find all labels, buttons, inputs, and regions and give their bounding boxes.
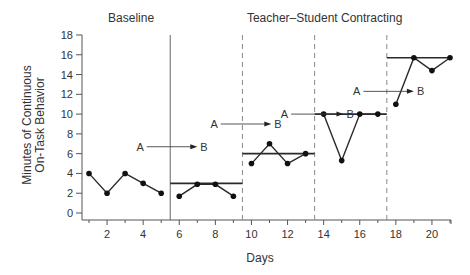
data-point — [104, 190, 110, 196]
data-point — [357, 111, 363, 117]
series-contract-phase-4 — [393, 55, 453, 107]
arrow-annotations: ABABABAB — [136, 85, 424, 152]
y-tick-label: 14 — [61, 69, 73, 81]
annotation-label-b: B — [200, 141, 207, 153]
y-tick-label: 6 — [67, 148, 73, 160]
annotation-label-a: A — [210, 118, 218, 130]
data-point — [429, 68, 435, 74]
data-point — [122, 171, 128, 177]
x-tick-label: 4 — [140, 228, 146, 240]
arrow-head-icon — [337, 112, 344, 117]
x-tick-label: 18 — [390, 228, 402, 240]
series-line — [179, 184, 233, 196]
data-point — [249, 161, 255, 167]
x-tick-label: 10 — [245, 228, 257, 240]
data-point — [158, 190, 164, 196]
y-tick-label: 10 — [61, 108, 73, 120]
x-tick-label: 16 — [354, 228, 366, 240]
x-tick-label: 2 — [104, 228, 110, 240]
axes: 0246810121416182468101214161820 — [61, 29, 451, 240]
y-tick-label: 0 — [67, 207, 73, 219]
phase-title: Baseline — [108, 11, 154, 25]
x-tick-label: 20 — [426, 228, 438, 240]
data-point — [411, 55, 417, 61]
annotation-label-b: B — [417, 85, 424, 97]
arrow-head-icon — [407, 89, 414, 94]
single-case-design-chart: 0246810121416182468101214161820 ABABABAB… — [0, 0, 470, 275]
data-point — [267, 141, 273, 147]
y-tick-label: 8 — [67, 128, 73, 140]
arrow-annotation: AB — [210, 118, 281, 130]
arrow-annotation: AB — [353, 85, 424, 97]
phase-titles: BaselineTeacher–Student Contracting — [108, 11, 402, 25]
series-line — [324, 114, 378, 161]
arrow-head-icon — [190, 144, 197, 149]
series-line — [89, 173, 161, 193]
data-point — [213, 182, 219, 188]
y-tick-label: 4 — [67, 167, 73, 179]
data-point — [195, 182, 201, 188]
y-tick-label: 12 — [61, 88, 73, 100]
data-point — [393, 101, 399, 107]
x-tick-label: 6 — [176, 228, 182, 240]
arrow-annotation: AB — [281, 108, 354, 120]
data-point — [140, 181, 146, 187]
data-point — [375, 111, 381, 117]
arrow-head-icon — [264, 121, 271, 126]
y-axis-label-line1: Minutes of Continuous — [20, 65, 34, 184]
y-tick-label: 18 — [61, 29, 73, 41]
data-point — [86, 171, 92, 177]
y-tick-label: 16 — [61, 49, 73, 61]
y-axis-label-line2: On-Task Behavior — [33, 77, 47, 172]
data-point — [176, 193, 182, 199]
annotation-label-a: A — [353, 85, 361, 97]
series-contract-phase-1 — [176, 182, 236, 199]
phase-title: Teacher–Student Contracting — [247, 11, 402, 25]
annotation-label-a: A — [281, 108, 289, 120]
series-baseline — [86, 171, 164, 196]
annotation-label-a: A — [136, 141, 144, 153]
x-tick-label: 8 — [212, 228, 218, 240]
data-point — [447, 55, 453, 61]
data-point — [303, 151, 309, 157]
data-point — [339, 158, 345, 164]
x-tick-label: 12 — [281, 228, 293, 240]
data-point — [231, 193, 237, 199]
annotation-label-b: B — [347, 108, 354, 120]
data-point — [285, 161, 291, 167]
data-series — [86, 55, 453, 199]
arrow-annotation: AB — [136, 141, 207, 153]
x-tick-label: 14 — [318, 228, 330, 240]
y-tick-label: 2 — [67, 187, 73, 199]
x-axis-label: Days — [246, 251, 273, 265]
